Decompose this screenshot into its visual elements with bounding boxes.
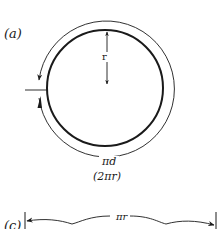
diagram-graphics bbox=[0, 0, 219, 229]
half-circumference-arrow-right bbox=[130, 216, 214, 225]
radius-label: r bbox=[101, 52, 108, 62]
circumference-alt-label: (2πr) bbox=[93, 171, 121, 182]
circle-shape bbox=[47, 30, 163, 146]
circumference-diagram: (a) r πd (2πr) (c) πr bbox=[0, 0, 219, 229]
half-circumference-arrow-left bbox=[27, 216, 110, 224]
half-circumference-label: πr bbox=[113, 212, 130, 222]
panel-a-label: (a) bbox=[4, 27, 22, 40]
circumference-label: πd bbox=[99, 156, 119, 167]
panel-c-label: (c) bbox=[4, 219, 21, 229]
arrowhead-icon bbox=[38, 96, 43, 108]
